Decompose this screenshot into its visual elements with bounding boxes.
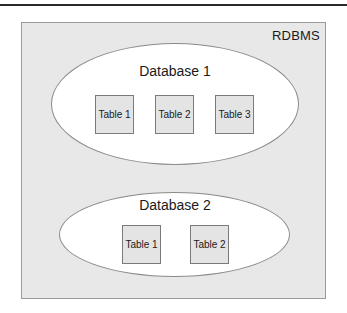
top-rule-divider — [0, 4, 347, 6]
rdbms-label: RDBMS — [272, 28, 320, 43]
database-1-table-3: Table 3 — [215, 95, 254, 134]
database-1-label: Database 1 — [95, 63, 255, 79]
database-1-table-1: Table 1 — [95, 95, 134, 134]
database-2-table-1: Table 1 — [122, 225, 161, 264]
database-1-table-2: Table 2 — [155, 95, 194, 134]
database-2-label: Database 2 — [95, 197, 255, 213]
database-2-table-2: Table 2 — [190, 225, 229, 264]
